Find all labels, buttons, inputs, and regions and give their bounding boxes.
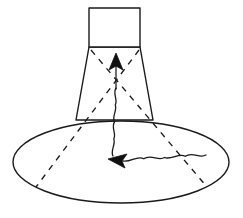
source-rectangle [89, 8, 140, 47]
figure-canvas [0, 0, 243, 218]
figure-root [0, 0, 243, 218]
